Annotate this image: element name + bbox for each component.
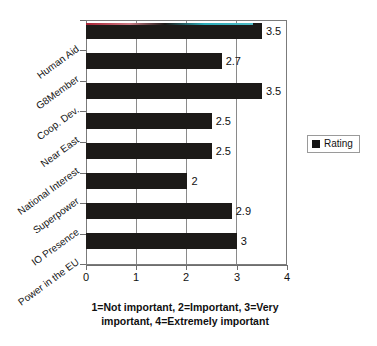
bar-national-interest [86, 143, 212, 159]
bar-value-g8member: 2.7 [226, 56, 241, 67]
x-tick [237, 265, 238, 270]
bar-io-presence [86, 203, 232, 219]
x-tick [186, 265, 187, 270]
x-tick-label-2: 2 [183, 272, 189, 283]
bar-human-aid [86, 23, 262, 39]
bar-slot: 3.5 [86, 83, 287, 99]
bar-slot: 2 [86, 173, 287, 189]
bar-value-coop-dev: 3.5 [266, 86, 281, 97]
bar-power-in-the-eu [86, 233, 237, 249]
x-tick-label-3: 3 [234, 272, 240, 283]
x-tick-label-1: 1 [133, 272, 139, 283]
x-tick [86, 265, 87, 270]
bar-superpower [86, 173, 187, 189]
bar-value-superpower: 2 [192, 176, 198, 187]
bar-value-near-east: 2.5 [216, 116, 231, 127]
bars-layer: 3.5 2.7 3.5 2.5 2.5 2 2.9 3 [86, 20, 287, 265]
y-tick [80, 20, 86, 21]
caption-line-2: important, 4=Extremely important [50, 314, 320, 328]
legend: Rating [307, 135, 360, 153]
y-tick [80, 50, 86, 51]
legend-label-rating: Rating [324, 139, 353, 149]
bar-slot: 2.7 [86, 53, 287, 69]
bar-value-io-presence: 2.9 [236, 206, 251, 217]
bar-slot: 2.9 [86, 203, 287, 219]
bar-coop-dev [86, 83, 262, 99]
bar-near-east [86, 113, 212, 129]
scan-fringe-cyan-icon [165, 23, 253, 25]
bar-value-national-interest: 2.5 [216, 146, 231, 157]
chart-caption: 1=Not important, 2=Important, 3=Very imp… [50, 300, 320, 328]
bar-slot: 2.5 [86, 113, 287, 129]
x-tick [287, 265, 288, 270]
bar-slot: 3 [86, 233, 287, 249]
legend-swatch-icon [312, 140, 320, 148]
bar-slot: 2.5 [86, 143, 287, 159]
bar-g8member [86, 53, 222, 69]
x-tick-label-4: 4 [284, 272, 290, 283]
bar-chart: 3.5 2.7 3.5 2.5 2.5 2 2.9 3 [0, 0, 377, 346]
bar-value-power-in-the-eu: 3 [241, 236, 247, 247]
caption-line-1: 1=Not important, 2=Important, 3=Very [50, 300, 320, 314]
bar-slot: 3.5 [86, 23, 287, 39]
x-tick-label-0: 0 [83, 272, 89, 283]
bar-value-human-aid: 3.5 [266, 26, 281, 37]
scan-fringe-red-icon [86, 23, 165, 25]
x-tick [136, 265, 137, 270]
y-tick [80, 111, 86, 112]
